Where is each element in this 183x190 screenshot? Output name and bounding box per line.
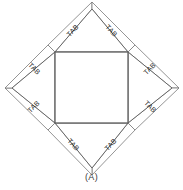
center-square-face bbox=[55, 52, 128, 123]
figure-caption: (A) bbox=[0, 172, 183, 182]
net-diagram: TAB TAB TAB TAB TAB TAB TAB TAB bbox=[0, 0, 183, 190]
figure-container: TAB TAB TAB TAB TAB TAB TAB TAB (A) bbox=[0, 0, 183, 190]
